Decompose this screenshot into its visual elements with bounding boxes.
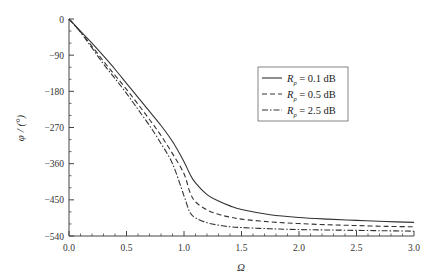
- y-tick-label: −90: [49, 51, 64, 61]
- data-series: [69, 19, 414, 231]
- y-axis-title: φ / (°): [14, 114, 27, 141]
- y-tick-label: −540: [44, 232, 64, 242]
- y-tick-label: 0: [59, 15, 64, 25]
- y-tick-label: −270: [44, 123, 64, 133]
- y-tick-label: −180: [44, 87, 64, 97]
- x-tick-label: 0.0: [63, 243, 75, 253]
- x-tick-label: 2.0: [293, 243, 305, 253]
- y-tick-label: −360: [44, 159, 64, 169]
- x-tick-label: 1.0: [178, 243, 190, 253]
- x-tick-label: 0.5: [121, 243, 133, 253]
- x-tick-label: 2.5: [351, 243, 363, 253]
- series-line-1: [69, 19, 414, 222]
- series-line-3: [69, 19, 414, 231]
- x-axis-title: Ω: [237, 261, 245, 273]
- phase-response-chart: 0.00.51.01.52.02.53.00−90−180−270−360−45…: [0, 0, 435, 280]
- x-tick-label: 3.0: [408, 243, 420, 253]
- legend: Rp = 0.1 dBRp = 0.5 dBRp = 2.5 dB: [258, 67, 348, 121]
- y-tick-label: −450: [44, 195, 64, 205]
- x-tick-label: 1.5: [236, 243, 248, 253]
- series-line-2: [69, 19, 414, 227]
